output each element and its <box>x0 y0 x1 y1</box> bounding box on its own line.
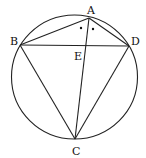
segment-ac <box>75 18 89 139</box>
label-d: D <box>131 35 140 48</box>
segment-ab <box>20 18 89 45</box>
label-e: E <box>74 50 82 63</box>
angle-mark-dot-right <box>92 28 94 30</box>
label-b: B <box>10 35 18 48</box>
angle-mark-dot-left <box>80 27 82 29</box>
segment-dc <box>75 46 129 139</box>
label-a: A <box>86 4 96 17</box>
geometry-diagram: A B C D E <box>0 0 146 158</box>
circumcircle <box>12 15 138 139</box>
segment-bc <box>20 45 75 139</box>
label-c: C <box>72 145 80 158</box>
segment-ad <box>89 18 129 46</box>
segment-bd <box>20 45 129 46</box>
